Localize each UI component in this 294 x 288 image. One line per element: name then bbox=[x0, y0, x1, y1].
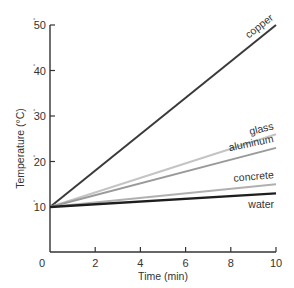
series-label-concrete: concrete bbox=[233, 168, 274, 183]
x-tick-label: 4 bbox=[137, 257, 143, 269]
x-axis-label: Time (min) bbox=[138, 270, 188, 282]
y-tick-label: 40 bbox=[34, 65, 46, 77]
x-tick-label: 8 bbox=[228, 257, 234, 269]
y-tick-label: 20 bbox=[34, 156, 46, 168]
x-tick-label: 2 bbox=[92, 257, 98, 269]
y-tick-label: 50 bbox=[34, 19, 46, 31]
x-tick-label: 0 bbox=[39, 257, 45, 269]
x-tick-label: 10 bbox=[270, 257, 282, 269]
y-tick-label: 30 bbox=[34, 110, 46, 122]
line-chart: 10°20°30°40°50°0246810Time (min)Temperat… bbox=[0, 0, 294, 288]
y-axis-label: Temperature (°C) bbox=[14, 108, 26, 189]
series-label-water: water bbox=[247, 198, 274, 210]
x-tick-label: 6 bbox=[183, 257, 189, 269]
y-tick-label: 10 bbox=[34, 201, 46, 213]
series-label-copper: copper bbox=[243, 11, 276, 41]
